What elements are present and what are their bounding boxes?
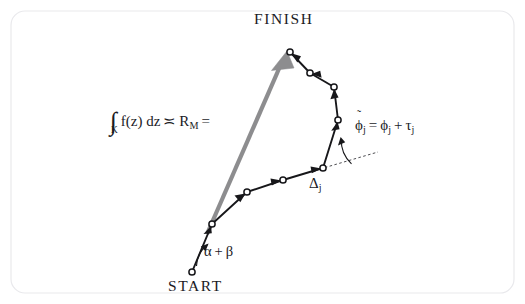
node-finish xyxy=(287,49,293,55)
node-6 xyxy=(331,84,337,90)
figure-canvas: FINISH START ∫Kf(z) dz≍RM= ˜ϕj=ϕj+τj ˜Δj… xyxy=(0,0,525,304)
random-walk-diagram xyxy=(0,0,525,304)
integral-relation: ≍ xyxy=(163,113,176,129)
node-3 xyxy=(280,177,286,183)
node-4 xyxy=(320,165,326,171)
integral-equation-label: ∫Kf(z) dz≍RM= xyxy=(110,112,213,135)
integral-equals: = xyxy=(201,113,209,129)
integral-body: f(z) dz xyxy=(121,113,161,129)
node-1 xyxy=(209,221,215,227)
node-5 xyxy=(335,117,341,123)
phi-equals: = xyxy=(369,117,377,133)
phi-term2-subscript: j xyxy=(411,124,414,135)
resultant-arrow-shaft xyxy=(207,63,282,234)
phi-plus: + xyxy=(394,117,402,133)
figure-frame xyxy=(11,11,514,293)
node-7 xyxy=(307,70,313,76)
delta-label: ˜Δj xyxy=(309,175,322,193)
integral-subscript: K xyxy=(111,125,118,135)
delta-tilde-group: ˜Δ xyxy=(309,175,319,192)
node-markers-group xyxy=(189,49,341,275)
phi-equation-label: ˜ϕj=ϕj+τj xyxy=(355,117,414,135)
phi-tilde-accent: ˜ xyxy=(357,109,361,121)
angle-plus: + xyxy=(215,243,223,259)
walk-segment-7 xyxy=(310,73,334,87)
walk-path-group xyxy=(192,52,340,272)
finish-label: FINISH xyxy=(254,10,314,28)
phi-tilde-group: ˜ϕ xyxy=(355,117,363,134)
phi-term1-subscript: j xyxy=(388,124,391,135)
resultant-symbol: R xyxy=(179,113,189,129)
node-2 xyxy=(244,189,250,195)
angle-label: α+β xyxy=(204,243,233,260)
beta-symbol: β xyxy=(226,243,233,259)
resultant-arrow-group xyxy=(207,51,294,234)
alpha-symbol: α xyxy=(204,243,212,259)
resultant-subscript: M xyxy=(189,120,198,131)
delta-subscript: j xyxy=(319,182,322,193)
start-label: START xyxy=(168,277,223,295)
node-start xyxy=(189,269,195,275)
delta-tilde-accent: ˜ xyxy=(312,167,316,179)
phi-term1: ϕ xyxy=(380,117,388,133)
phi-subscript: j xyxy=(363,124,366,135)
